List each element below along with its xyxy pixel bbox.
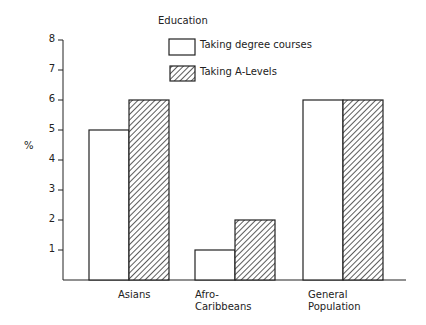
bar-afro-caribbeans-degree <box>195 250 235 280</box>
y-tick-label: 6 <box>41 93 55 104</box>
x-category-label-line: Asians <box>118 289 151 301</box>
y-tick-label: 4 <box>41 153 55 164</box>
bars <box>89 100 383 280</box>
y-tick-label: 8 <box>41 33 55 44</box>
y-tick-label: 7 <box>41 63 55 74</box>
y-tick-label: 3 <box>41 183 55 194</box>
bar-general-population-alevels <box>343 100 383 280</box>
x-category-label-line: Caribbeans <box>195 301 252 313</box>
legend-swatch-degree <box>169 39 195 55</box>
legend-label-degree: Taking degree courses <box>200 39 312 50</box>
x-category-label-line: Afro- <box>195 289 252 301</box>
bar-asians-alevels <box>129 100 169 280</box>
y-axis-label: % <box>24 140 34 151</box>
chart-title: Education <box>158 15 208 26</box>
legend-swatch-alevels <box>170 66 195 81</box>
y-tick-label: 5 <box>41 123 55 134</box>
bar-asians-degree <box>89 130 129 280</box>
y-tick-label: 1 <box>41 243 55 254</box>
bar-afro-caribbeans-alevels <box>235 220 275 280</box>
x-category-label-line: General <box>308 289 361 301</box>
bar-general-population-degree <box>303 100 343 280</box>
x-category-label: Asians <box>118 289 151 301</box>
y-tick-label: 2 <box>41 213 55 224</box>
legend-swatches <box>169 39 195 81</box>
x-category-label-line: Population <box>308 301 361 313</box>
legend-label-alevels: Taking A-Levels <box>200 66 277 77</box>
x-category-label: GeneralPopulation <box>308 289 361 313</box>
x-category-label: Afro-Caribbeans <box>195 289 252 313</box>
